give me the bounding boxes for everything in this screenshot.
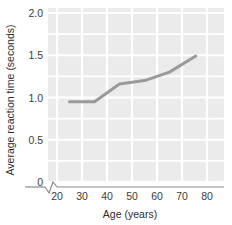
x-axis-title: Age (years)	[103, 208, 157, 220]
y-tick-label-1.5: 1.5	[28, 49, 43, 61]
x-tick-label-70: 70	[176, 190, 188, 202]
reaction-time-line-chart: 00.51.01.52.0 20304050607080 Age (years)…	[0, 0, 232, 225]
y-tick-label-0: 0	[37, 176, 43, 188]
x-tick-label-60: 60	[151, 190, 163, 202]
x-tick-label-50: 50	[126, 190, 138, 202]
x-tick-label-40: 40	[101, 190, 113, 202]
y-tick-label-0.5: 0.5	[28, 134, 43, 146]
y-tick-label-group: 00.51.01.52.0	[28, 7, 43, 188]
y-tick-label-2.0: 2.0	[28, 7, 43, 19]
x-tick-label-20: 20	[51, 190, 63, 202]
y-axis-title: Average reaction time (seconds)	[4, 25, 16, 176]
x-tick-label-group: 20304050607080	[51, 190, 213, 202]
chart-canvas: 00.51.01.52.0 20304050607080 Age (years)…	[0, 0, 232, 225]
y-tick-label-1.0: 1.0	[28, 92, 43, 104]
x-tick-label-80: 80	[201, 190, 213, 202]
x-tick-label-30: 30	[76, 190, 88, 202]
